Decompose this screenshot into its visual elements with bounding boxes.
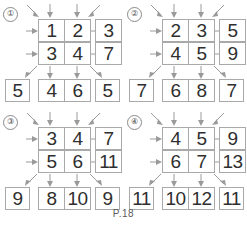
- col-sum-1: 10: [64, 187, 91, 210]
- col-sum-1: 6: [64, 79, 91, 102]
- corner-sum-bottom-right: 11: [219, 187, 244, 210]
- puzzle-1: ① 1 2 3 4 3 7 4 6 5 5: [0, 0, 123, 106]
- col-sum-0: 4: [38, 79, 65, 102]
- row-sum-0: 5: [219, 19, 246, 42]
- col-sum-0: 10: [162, 187, 189, 210]
- row-sum-0: 9: [219, 127, 246, 150]
- row-sum-0: 3: [95, 19, 122, 42]
- col-sum-1: 12: [188, 187, 215, 210]
- cell-r0c0: 4: [162, 127, 189, 150]
- row-sum-0: 7: [95, 127, 122, 150]
- worksheet-sheet: ① 1 2 3 4 3 7 4 6 5 5 ②: [0, 0, 247, 226]
- cell-r0c1: 4: [64, 127, 91, 150]
- cell-r0c0: 2: [162, 19, 189, 42]
- row-sum-1: 7: [95, 42, 122, 65]
- cell-r1c0: 5: [38, 150, 65, 173]
- corner-sum-bottom-left: 11: [129, 187, 154, 210]
- cell-r1c0: 3: [38, 42, 65, 65]
- corner-sum-bottom-right: 9: [95, 187, 120, 210]
- corner-sum-bottom-right: 7: [219, 79, 244, 102]
- cell-r1c0: 6: [162, 150, 189, 173]
- corner-sum-bottom-right: 5: [95, 79, 120, 102]
- cell-r1c1: 4: [64, 42, 91, 65]
- cell-r1c0: 4: [162, 42, 189, 65]
- puzzle-4: ④ 4 5 6 7 9 13 10 12 11 11: [124, 108, 247, 214]
- puzzle-2: ② 2 3 4 5 5 9 6 8 7 7: [124, 0, 247, 106]
- cell-r0c0: 1: [38, 19, 65, 42]
- cell-r0c0: 3: [38, 127, 65, 150]
- cell-r1c1: 7: [188, 150, 215, 173]
- corner-sum-bottom-left: 7: [129, 79, 154, 102]
- col-sum-0: 6: [162, 79, 189, 102]
- puzzle-3: ③ 3 4 5 6 7 11 8 10 9 9: [0, 108, 123, 214]
- row-sum-1: 13: [219, 150, 246, 173]
- cell-r0c1: 2: [64, 19, 91, 42]
- row-sum-1: 11: [95, 150, 122, 173]
- row-sum-1: 9: [219, 42, 246, 65]
- col-sum-0: 8: [38, 187, 65, 210]
- col-sum-1: 8: [188, 79, 215, 102]
- corner-sum-bottom-left: 9: [5, 187, 30, 210]
- cell-r0c1: 5: [188, 127, 215, 150]
- cell-r1c1: 5: [188, 42, 215, 65]
- cell-r0c1: 3: [188, 19, 215, 42]
- page-caption: P.18: [0, 208, 247, 219]
- corner-sum-bottom-left: 5: [5, 79, 30, 102]
- cell-r1c1: 6: [64, 150, 91, 173]
